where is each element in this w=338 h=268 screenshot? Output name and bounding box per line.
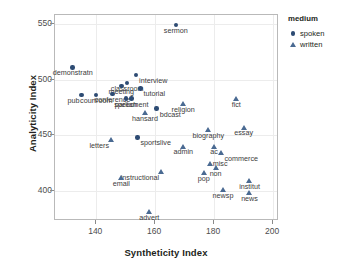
data-point-label: news <box>241 195 258 203</box>
data-point-label: pub <box>68 97 80 105</box>
y-tick-label: 550 <box>12 18 52 28</box>
triangle-marker-icon <box>290 42 296 47</box>
legend-label: spoken <box>300 29 325 38</box>
data-point-label: non <box>210 170 222 178</box>
data-point-label: biography <box>192 132 224 140</box>
data-point-label: religion <box>172 106 195 114</box>
legend-key <box>288 31 298 35</box>
legend-key <box>288 42 298 47</box>
data-point-label: letters <box>89 142 109 150</box>
data-point-label: advert <box>139 214 159 222</box>
legend: medium spokenwritten <box>288 14 338 50</box>
data-point-label: parliament <box>115 101 149 109</box>
y-tick-label: 450 <box>12 129 52 139</box>
gridline-vertical <box>214 15 215 219</box>
data-point-label: tutorial <box>143 90 165 98</box>
circle-marker-icon <box>134 73 138 77</box>
data-point-label: pop <box>198 175 210 183</box>
gridline-vertical <box>273 15 274 219</box>
scatter-plot-figure: Analyticity Index Syntheticity Index 400… <box>0 0 338 268</box>
x-axis-title: Syntheticity Index <box>54 247 278 258</box>
legend-title: medium <box>288 14 338 23</box>
x-tick-label: 160 <box>134 226 174 236</box>
gridline-horizontal <box>55 24 277 25</box>
y-tick-label: 400 <box>12 185 52 195</box>
data-point-label: essay <box>234 129 253 137</box>
data-point-label: commerce <box>225 155 259 163</box>
legend-item-spoken[interactable]: spoken <box>288 28 338 39</box>
x-tick-label: 140 <box>75 226 115 236</box>
data-point-label: ac <box>210 148 218 156</box>
legend-label: written <box>300 40 322 49</box>
triangle-marker-icon <box>218 150 224 155</box>
legend-item-written[interactable]: written <box>288 39 338 50</box>
plot-area: sermondemonstratninterviewclassroommeeti… <box>54 14 278 220</box>
x-tick-label: 180 <box>193 226 233 236</box>
x-tick-mark <box>272 220 273 224</box>
circle-marker-icon <box>138 86 142 90</box>
x-tick-mark <box>95 220 96 224</box>
y-tick-label: 500 <box>12 74 52 84</box>
data-point-label: newsp <box>213 192 234 200</box>
data-point-label: sportslive <box>141 139 171 147</box>
data-point-label: hansard <box>132 115 158 123</box>
circle-marker-icon <box>291 31 295 35</box>
x-tick-mark <box>213 220 214 224</box>
data-point-label: fict <box>232 101 241 109</box>
x-tick-label: 200 <box>252 226 292 236</box>
circle-marker-icon <box>135 135 139 139</box>
legend-entries: spokenwritten <box>288 28 338 50</box>
gridline-horizontal <box>55 191 277 192</box>
data-point-label: demonstratn <box>53 69 93 77</box>
y-axis-title: Analyticity Index <box>27 34 38 194</box>
data-point-label: sermon <box>164 27 188 35</box>
data-point-label: admin <box>173 148 193 156</box>
data-point-label: email <box>113 180 130 188</box>
gridline-vertical <box>96 15 97 219</box>
circle-marker-icon <box>154 106 158 110</box>
